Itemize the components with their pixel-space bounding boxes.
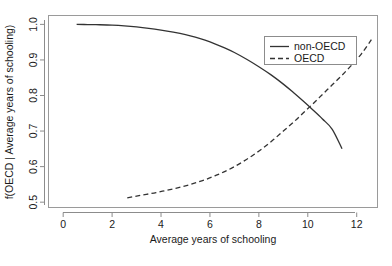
y-tick-label: 1.0 <box>27 17 39 32</box>
y-tick-label: 0.8 <box>27 88 39 103</box>
figure-caption <box>0 258 392 266</box>
x-axis-ticks: 024681012 <box>60 213 362 231</box>
x-tick-label: 2 <box>109 218 115 230</box>
y-tick-label: 0.7 <box>27 124 39 139</box>
figure-container: 0.50.60.70.80.91.0 024681012 Average yea… <box>0 0 392 266</box>
x-tick-label: 8 <box>256 218 262 230</box>
y-tick-label: 0.5 <box>27 195 39 210</box>
x-axis-title: Average years of schooling <box>150 233 277 245</box>
legend-label-non-oecd: non-OECD <box>294 40 346 52</box>
y-axis-ticks: 0.50.60.70.80.91.0 <box>27 17 45 210</box>
y-tick-label: 0.9 <box>27 52 39 67</box>
y-axis-title: f(OECD | Average years of schooling) <box>3 25 15 200</box>
y-tick-label: 0.6 <box>27 159 39 174</box>
line-chart: 0.50.60.70.80.91.0 024681012 Average yea… <box>0 0 392 266</box>
x-tick-label: 4 <box>158 218 164 230</box>
x-tick-label: 12 <box>351 218 363 230</box>
x-tick-label: 6 <box>207 218 213 230</box>
x-tick-label: 10 <box>302 218 314 230</box>
legend-label-oecd: OECD <box>294 52 325 64</box>
x-tick-label: 0 <box>60 218 66 230</box>
legend[interactable]: non-OECD OECD <box>265 37 357 65</box>
